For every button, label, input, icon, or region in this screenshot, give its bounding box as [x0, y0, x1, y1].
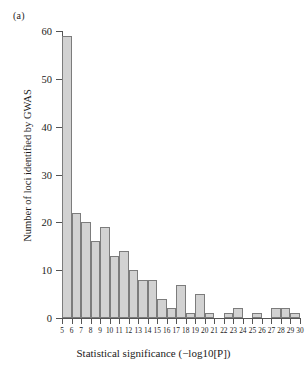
y-tick-label: 30: [20, 175, 52, 176]
x-tick-mark: [138, 319, 139, 324]
histogram-bar: [110, 256, 120, 318]
panel-label: (a): [13, 10, 25, 21]
x-tick-mark: [81, 319, 82, 324]
x-tick-mark: [110, 319, 111, 324]
x-axis-title: Statistical significance (−log10[P]): [0, 347, 307, 359]
histogram-bar: [81, 222, 91, 318]
x-tick-mark: [262, 319, 263, 324]
histogram-bar: [233, 308, 243, 318]
histogram-bar: [290, 313, 300, 318]
y-tick-label: 50: [20, 79, 52, 80]
histogram-bar: [100, 227, 110, 318]
x-tick-mark: [100, 319, 101, 324]
x-tick-mark: [252, 319, 253, 324]
histogram-bar: [195, 294, 205, 318]
histogram-bar: [62, 36, 72, 318]
x-tick-mark: [290, 319, 291, 324]
x-tick-mark: [300, 319, 301, 324]
x-tick-mark: [186, 319, 187, 324]
plot-area: [62, 31, 300, 318]
histogram-bar: [72, 213, 82, 318]
histogram-bar: [281, 308, 291, 318]
x-tick-mark: [91, 319, 92, 324]
x-tick-mark: [271, 319, 272, 324]
y-tick-label: 60: [20, 31, 52, 32]
histogram-bar: [148, 280, 158, 318]
x-tick-label: 30: [291, 326, 307, 335]
x-tick-mark: [205, 319, 206, 324]
x-tick-mark: [157, 319, 158, 324]
y-tick-label: 10: [20, 270, 52, 271]
x-tick-mark: [72, 319, 73, 324]
y-tick-label: 0: [20, 318, 52, 319]
y-tick-label: 20: [20, 222, 52, 223]
histogram-bar: [176, 285, 186, 318]
x-tick-mark: [281, 319, 282, 324]
histogram-bar: [119, 251, 129, 318]
x-tick-mark: [62, 319, 63, 324]
histogram-bar: [186, 313, 196, 318]
histogram-bar: [252, 313, 262, 318]
histogram-bar: [157, 299, 167, 318]
x-tick-mark: [148, 319, 149, 324]
x-axis-line: [62, 318, 301, 319]
figure-panel-a: (a) Number of loci identified by GWAS St…: [0, 0, 307, 374]
histogram-bar: [138, 280, 148, 318]
x-tick-mark: [214, 319, 215, 324]
x-tick-mark: [224, 319, 225, 324]
x-tick-mark: [176, 319, 177, 324]
histogram-bar: [167, 308, 177, 318]
histogram-bar: [271, 308, 281, 318]
y-axis-title: Number of loci identified by GWAS: [22, 46, 33, 286]
histogram-bar: [91, 241, 101, 318]
x-tick-mark: [167, 319, 168, 324]
x-tick-mark: [243, 319, 244, 324]
x-tick-mark: [233, 319, 234, 324]
y-tick-label: 40: [20, 127, 52, 128]
x-tick-mark: [195, 319, 196, 324]
x-tick-mark: [119, 319, 120, 324]
histogram-bar: [205, 313, 215, 318]
histogram-bar: [129, 270, 139, 318]
x-tick-mark: [129, 319, 130, 324]
histogram-bar: [224, 313, 234, 318]
